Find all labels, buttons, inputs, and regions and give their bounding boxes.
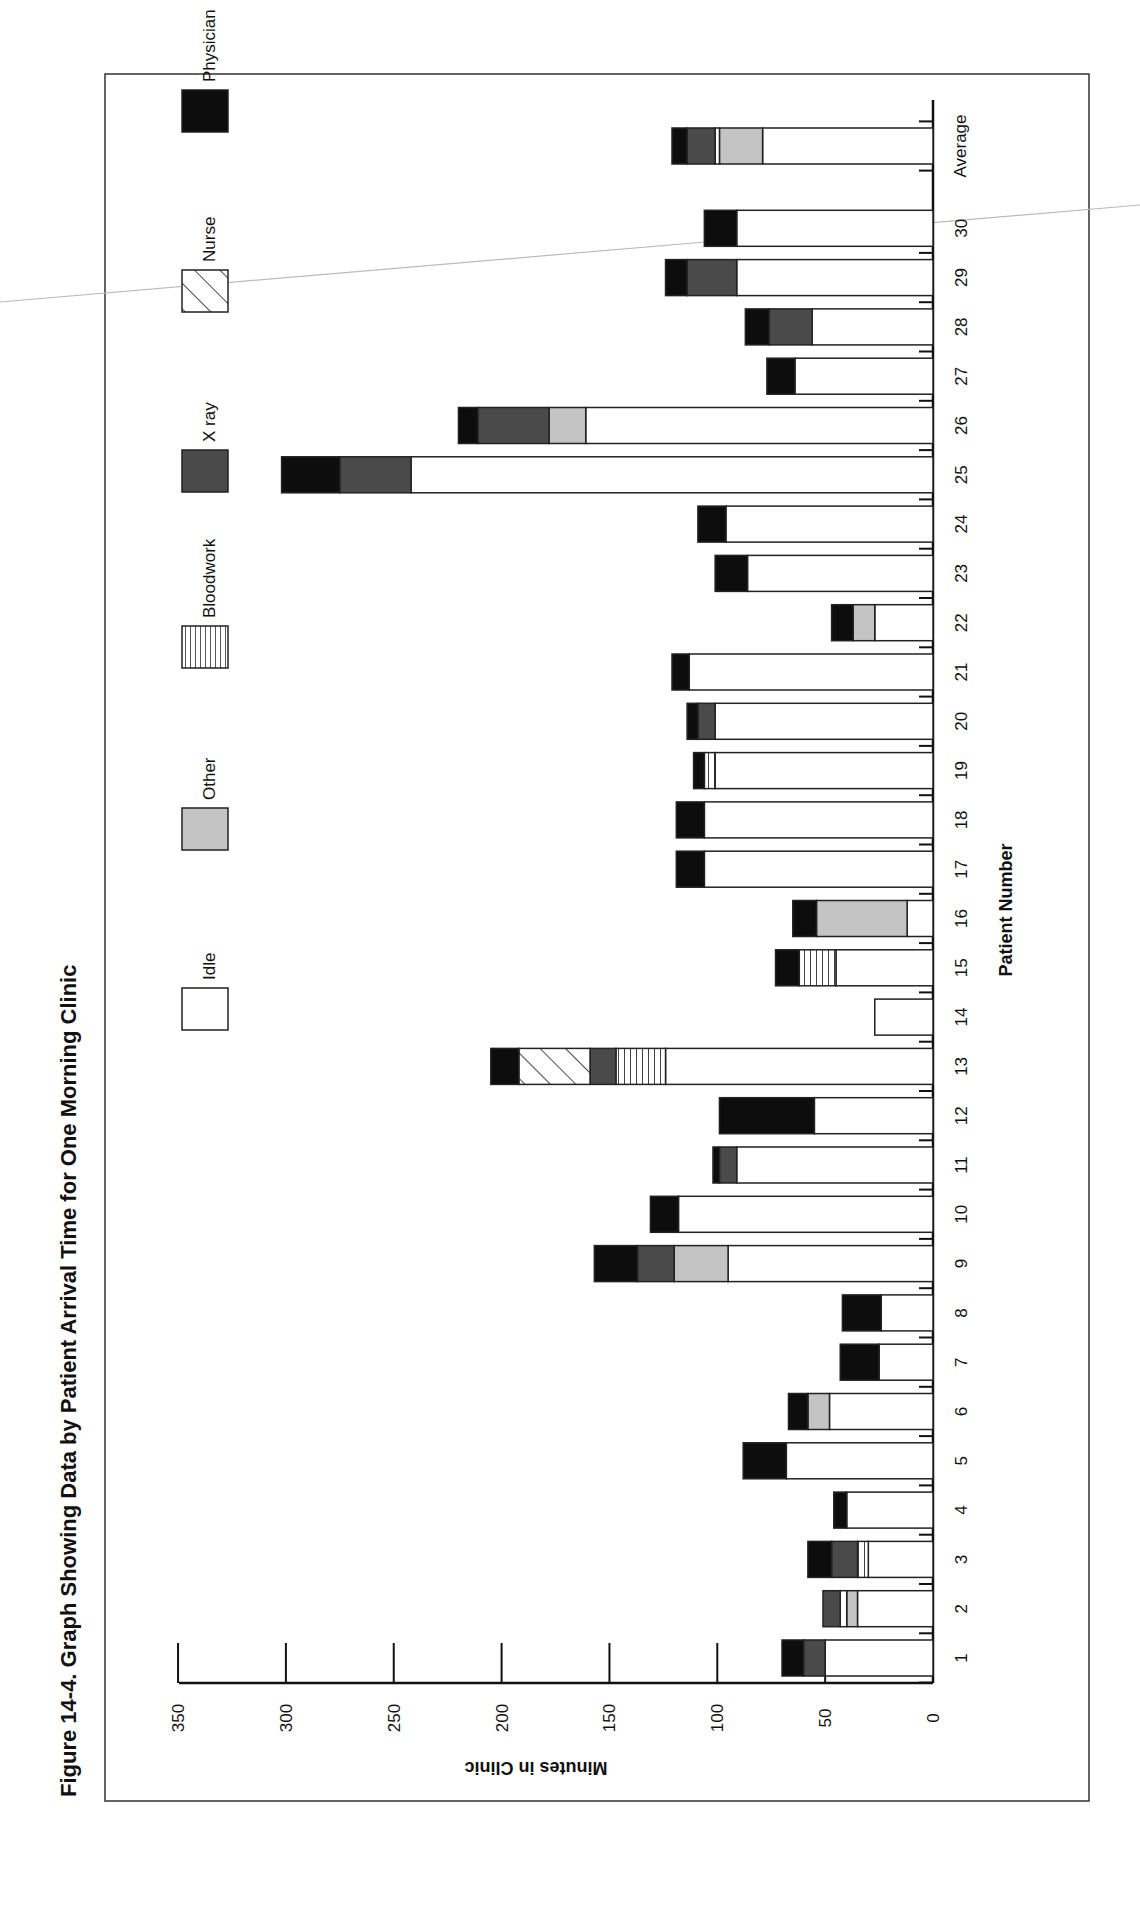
bar-patient-30 <box>704 210 933 246</box>
minutes-tick-label: 0 <box>924 1713 943 1722</box>
bar-segment-physician <box>834 1492 847 1528</box>
bar-segment-physician <box>793 901 817 937</box>
bar-segment-bloodwork <box>840 1591 846 1627</box>
patient-tick-label: 26 <box>952 416 971 435</box>
bar-segment-physician <box>458 408 477 444</box>
bar-segment-idle <box>737 260 933 296</box>
patient-tick-label: 5 <box>952 1456 971 1465</box>
bar-segment-idle <box>847 1492 933 1528</box>
bar-segment-idle <box>814 1098 933 1134</box>
bar-segment-physician <box>745 309 769 345</box>
bar-segment-xray <box>804 1640 826 1676</box>
legend-item-physician: Physician <box>182 9 228 132</box>
legend-swatch-idle <box>182 988 228 1030</box>
patient-tick-label: 28 <box>952 317 971 336</box>
bar-patient-26 <box>458 408 933 444</box>
bar-segment-other <box>674 1246 728 1282</box>
bar-segment-idle <box>704 802 933 838</box>
patient-tick-label: 29 <box>952 268 971 287</box>
legend-swatch-physician <box>182 90 228 132</box>
bar-segment-physician <box>676 851 704 887</box>
bar-segment-physician <box>713 1147 719 1183</box>
bar-segment-physician <box>282 457 340 493</box>
patient-tick-label: 4 <box>952 1505 971 1514</box>
bar-patient-25 <box>282 457 933 493</box>
bar-segment-xray <box>769 309 812 345</box>
bar-segment-physician <box>694 753 705 789</box>
bar-segment-idle <box>715 703 933 739</box>
bar-segment-idle <box>875 999 933 1035</box>
bar-segment-physician <box>743 1443 786 1479</box>
bars <box>282 128 933 1676</box>
patient-tick-label: 15 <box>952 958 971 977</box>
bar-patient-average <box>672 128 933 164</box>
patient-tick-label: 13 <box>952 1057 971 1076</box>
bar-patient-2 <box>823 1591 933 1627</box>
bar-segment-idle <box>411 457 933 493</box>
bar-patient-10 <box>650 1196 933 1232</box>
bar-segment-idle <box>881 1295 933 1331</box>
minutes-tick-label: 300 <box>277 1704 296 1732</box>
bar-segment-xray <box>478 408 549 444</box>
patient-tick-label: 23 <box>952 564 971 583</box>
bar-segment-physician <box>788 1394 807 1430</box>
bar-segment-physician <box>840 1344 879 1380</box>
bar-patient-28 <box>745 309 933 345</box>
bar-patient-19 <box>694 753 933 789</box>
patient-tick-label: 25 <box>952 465 971 484</box>
bar-segment-xray <box>637 1246 674 1282</box>
patient-tick-label: 1 <box>952 1653 971 1662</box>
legend-label-idle: Idle <box>200 953 219 980</box>
bar-segment-physician <box>491 1048 519 1084</box>
patient-tick-label: 16 <box>952 909 971 928</box>
bar-patient-24 <box>698 506 933 542</box>
bar-segment-physician <box>698 506 726 542</box>
bar-segment-idle <box>858 1591 933 1627</box>
legend-label-bloodwork: Bloodwork <box>200 538 219 618</box>
bar-segment-idle <box>704 851 933 887</box>
bar-patient-18 <box>676 802 933 838</box>
minutes-tick-label: 100 <box>708 1704 727 1732</box>
bar-segment-idle <box>825 1640 933 1676</box>
legend-item-other: Other <box>182 757 228 850</box>
bar-segment-idle <box>875 605 933 641</box>
bar-patient-8 <box>842 1295 933 1331</box>
bar-segment-idle <box>586 408 933 444</box>
bar-segment-idle <box>868 1541 933 1577</box>
patient-tick-label: 9 <box>952 1259 971 1268</box>
bar-segment-idle <box>763 128 933 164</box>
bar-segment-idle <box>812 309 933 345</box>
legend-label-other: Other <box>200 757 219 800</box>
bar-segment-idle <box>829 1394 933 1430</box>
bar-segment-physician <box>715 555 747 591</box>
bar-patient-20 <box>687 703 933 739</box>
legend-item-xray: X ray <box>182 402 228 492</box>
bar-segment-other <box>808 1394 830 1430</box>
bar-segment-nurse <box>519 1048 590 1084</box>
patient-tick-label: 18 <box>952 810 971 829</box>
legend-swatch-other <box>182 808 228 850</box>
bar-segment-idle <box>907 901 933 937</box>
bar-segment-idle <box>726 506 933 542</box>
bar-segment-physician <box>832 605 854 641</box>
bar-patient-9 <box>594 1246 933 1282</box>
bar-segment-idle <box>678 1196 933 1232</box>
bar-patient-23 <box>715 555 933 591</box>
minutes-tick-label: 50 <box>816 1709 835 1728</box>
bar-segment-idle <box>728 1246 933 1282</box>
patient-tick-label: 19 <box>952 761 971 780</box>
bar-segment-bloodwork <box>704 753 715 789</box>
patient-tick-label: 22 <box>952 613 971 632</box>
bar-patient-27 <box>767 358 933 394</box>
bar-segment-idle <box>689 654 933 690</box>
patient-tick-label: 11 <box>952 1156 971 1174</box>
bar-segment-physician <box>782 1640 804 1676</box>
bar-patient-12 <box>719 1098 933 1134</box>
patient-tick-label: 27 <box>952 367 971 386</box>
patient-tick-label: 10 <box>952 1205 971 1224</box>
bar-patient-16 <box>793 901 933 937</box>
bar-segment-idle <box>879 1344 933 1380</box>
patient-tick-label: 21 <box>952 663 971 682</box>
bar-patient-13 <box>491 1048 933 1084</box>
bar-segment-idle <box>715 753 933 789</box>
